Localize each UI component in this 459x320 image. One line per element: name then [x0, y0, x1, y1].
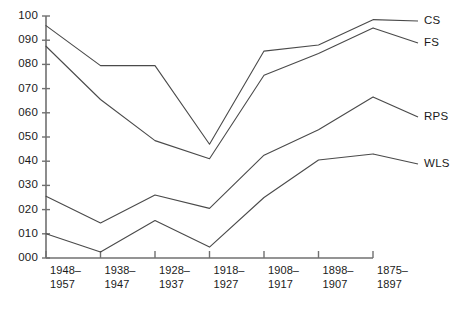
y-axis-tick-label: 070	[4, 82, 38, 94]
x-axis-tick-label-line: 1947	[105, 278, 159, 292]
chart-series-lines	[46, 20, 373, 252]
y-axis-tick-label: 020	[4, 203, 38, 215]
x-axis-tick-label-line: 1927	[214, 278, 268, 292]
x-axis-tick-label: 1928–1937	[159, 264, 213, 291]
y-axis-tick-label: 090	[4, 33, 38, 45]
x-axis-tick-label-line: 1938–	[105, 264, 159, 278]
y-axis-tick-label: 080	[4, 57, 38, 69]
y-axis-tick-label: 060	[4, 106, 38, 118]
x-axis-tick-label-line: 1898–	[323, 264, 377, 278]
x-axis-tick-label-line: 1897	[377, 278, 431, 292]
legend-label-fs: FS	[424, 36, 439, 48]
legend-label-wls: WLS	[424, 157, 450, 169]
y-axis-tick-label: 030	[4, 178, 38, 190]
x-axis-tick-label: 1898–1907	[323, 264, 377, 291]
chart-legend-leader-lines	[373, 20, 418, 164]
legend-label-rps: RPS	[424, 110, 449, 122]
x-axis-tick-label-line: 1907	[323, 278, 377, 292]
y-axis-tick-label: 100	[4, 9, 38, 21]
x-axis-tick-label-line: 1917	[268, 278, 322, 292]
line-chart: 000010020030040050060070080090100 1948–1…	[0, 0, 459, 320]
legend-label-cs: CS	[424, 14, 441, 26]
caption-remnant	[18, 312, 448, 320]
y-axis-tick-label: 000	[4, 251, 38, 263]
x-axis-tick-label: 1948–1957	[50, 264, 104, 291]
x-axis-tick-label: 1938–1947	[105, 264, 159, 291]
chart-axes	[42, 16, 373, 258]
x-axis-tick-label: 1918–1927	[214, 264, 268, 291]
x-axis-tick-label: 1908–1917	[268, 264, 322, 291]
x-axis-tick-label-line: 1937	[159, 278, 213, 292]
y-axis-tick-label: 040	[4, 154, 38, 166]
x-axis-tick-label-line: 1957	[50, 278, 104, 292]
x-axis-tick-label: 1875–1897	[377, 264, 431, 291]
y-axis-tick-label: 010	[4, 227, 38, 239]
y-axis-tick-label: 050	[4, 130, 38, 142]
x-axis-tick-label-line: 1948–	[50, 264, 104, 278]
x-axis-tick-label-line: 1908–	[268, 264, 322, 278]
x-axis-tick-label-line: 1875–	[377, 264, 431, 278]
x-axis-tick-label-line: 1918–	[214, 264, 268, 278]
x-axis-tick-label-line: 1928–	[159, 264, 213, 278]
